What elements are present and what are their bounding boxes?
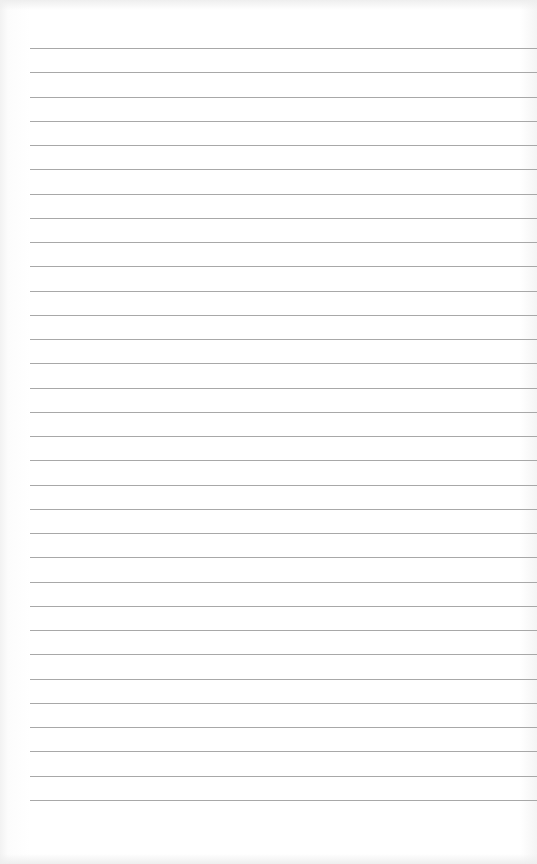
ruled-line: [30, 363, 537, 364]
ruled-line: [30, 654, 537, 655]
ruled-line: [30, 121, 537, 122]
ruled-line: [30, 727, 537, 728]
ruled-line: [30, 460, 537, 461]
ruled-line: [30, 776, 537, 777]
ruled-line: [30, 48, 537, 49]
ruled-line: [30, 145, 537, 146]
paper-top-edge: [0, 0, 537, 10]
ruled-line: [30, 339, 537, 340]
ruled-line: [30, 509, 537, 510]
ruled-line: [30, 533, 537, 534]
ruled-line: [30, 169, 537, 170]
ruled-line: [30, 582, 537, 583]
ruled-line: [30, 194, 537, 195]
ruled-line: [30, 242, 537, 243]
ruled-line: [30, 388, 537, 389]
ruled-line: [30, 72, 537, 73]
ruled-line: [30, 412, 537, 413]
ruled-line: [30, 679, 537, 680]
ruled-line: [30, 751, 537, 752]
ruled-line: [30, 606, 537, 607]
ruled-line: [30, 266, 537, 267]
ruled-line: [30, 703, 537, 704]
lined-paper-sheet: [0, 0, 537, 864]
ruled-line: [30, 315, 537, 316]
ruled-line: [30, 557, 537, 558]
ruled-line: [30, 485, 537, 486]
ruled-line: [30, 291, 537, 292]
ruled-line: [30, 218, 537, 219]
ruled-line: [30, 436, 537, 437]
ruled-line: [30, 97, 537, 98]
ruled-line: [30, 630, 537, 631]
paper-bottom-edge: [0, 854, 537, 864]
ruled-line: [30, 800, 537, 801]
